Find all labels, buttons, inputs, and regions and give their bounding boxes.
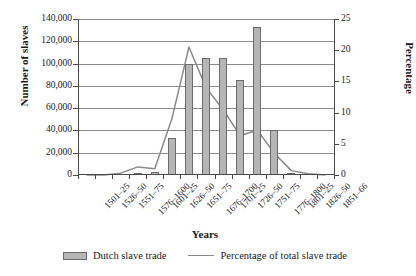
legend-item-line: Percentage of total slave trade <box>188 250 347 261</box>
y-axis-title-right: Percentage <box>404 8 416 128</box>
x-axis-category-labels: 1501–251526–501551–751576–16001601–25162… <box>78 181 334 241</box>
y-tick-label-left: 60,000 <box>2 102 72 112</box>
legend-bar-label: Dutch slave trade <box>93 250 166 261</box>
y-tick-label-right: 5 <box>341 138 381 148</box>
legend-bar-swatch-icon <box>63 252 87 260</box>
x-tickmark <box>300 175 301 179</box>
y-tick-label-right: 10 <box>341 107 381 117</box>
x-tickmark <box>215 175 216 179</box>
x-tickmark <box>249 175 250 179</box>
y-tick-label-left: 100,000 <box>2 58 72 68</box>
x-tickmark <box>232 175 233 179</box>
y-tick-label-right: 0 <box>341 169 381 179</box>
x-tickmark <box>78 175 79 179</box>
y-tick-label-left: 120,000 <box>2 35 72 45</box>
x-tickmark <box>266 175 267 179</box>
x-tickmark <box>129 175 130 179</box>
y-tick-label-right: 15 <box>341 75 381 85</box>
y-tick-label-right: 20 <box>341 44 381 54</box>
x-tickmark <box>146 175 147 179</box>
y-tick-label-right: 25 <box>341 13 381 23</box>
legend-item-bar: Dutch slave trade <box>63 250 166 261</box>
plot-border <box>78 19 334 175</box>
plot-area <box>78 19 334 175</box>
legend-line-swatch-icon <box>188 255 214 256</box>
legend-line-label: Percentage of total slave trade <box>220 250 347 261</box>
chart-legend: Dutch slave trade Percentage of total sl… <box>0 250 410 261</box>
y-tick-label-left: 0 <box>2 169 72 179</box>
x-tickmark <box>180 175 181 179</box>
y-tick-label-left: 20,000 <box>2 147 72 157</box>
y-tick-label-left: 40,000 <box>2 124 72 134</box>
x-tickmark <box>197 175 198 179</box>
x-tickmark <box>163 175 164 179</box>
x-tickmark <box>112 175 113 179</box>
x-tickmark <box>95 175 96 179</box>
right-axis-spine <box>334 19 335 175</box>
x-tickmark <box>334 175 335 179</box>
x-tickmark <box>317 175 318 179</box>
y-tick-label-left: 80,000 <box>2 80 72 90</box>
y-tick-label-left: 140,000 <box>2 13 72 23</box>
x-tickmark <box>283 175 284 179</box>
